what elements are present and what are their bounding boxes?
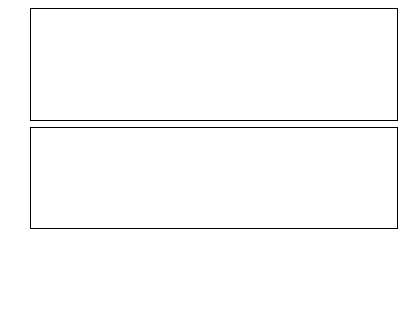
- chart-root: [0, 0, 404, 315]
- chart-panel-usa: [30, 8, 398, 121]
- plot-area-usa: [31, 9, 397, 120]
- bottom-category-label-strip: [30, 233, 398, 315]
- top-category-label-strip: [30, 0, 398, 6]
- plot-area-ussr: [31, 128, 397, 228]
- chart-panel-ussr: [30, 127, 398, 229]
